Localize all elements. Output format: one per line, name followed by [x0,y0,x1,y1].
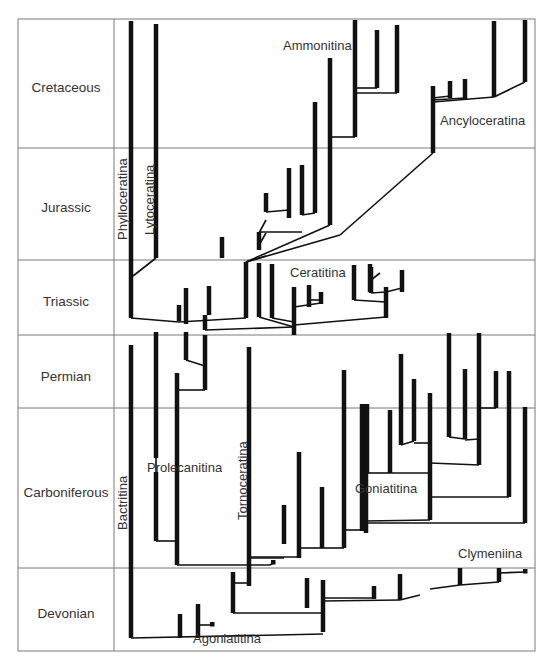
branch-link [294,317,386,325]
clade-label-bactritina: Bactritina [115,475,130,530]
branch-link [133,258,156,276]
branch-link [494,82,525,97]
lineage-endpoint [523,569,528,574]
lineage-endpoint [210,622,215,627]
clade-label-goniatitina: Goniatitina [355,481,418,496]
period-labels: CretaceousJurassicTriassicPermianCarboni… [24,80,109,621]
clade-label-ammonitina: Ammonitina [283,38,352,53]
period-label-devonian: Devonian [37,606,94,621]
branch-link [186,360,205,366]
branch-link [259,220,266,233]
branch-link [179,318,246,322]
clade-label-lytoceratina: Lytoceratina [142,164,157,235]
branch-link [449,437,465,439]
clade-label-clymeniina: Clymeniina [458,546,523,561]
period-label-permian: Permian [41,369,91,384]
clade-label-tornoceratina: Tornoceratina [235,440,250,520]
period-label-jurassic: Jurassic [41,200,91,215]
branch-link [460,582,499,585]
lineage-endpoints [210,560,528,627]
branch-link [266,210,289,212]
period-label-triassic: Triassic [43,294,89,309]
branch-link [323,600,400,601]
branch-link [400,595,420,600]
branch-link [354,300,386,302]
period-label-carboniferous: Carboniferous [24,485,109,500]
clade-label-phylloceratina: Phylloceratina [115,158,130,240]
lineage-endpoint [271,560,276,565]
clade-label-prolecanitina: Prolecanitina [147,460,223,475]
phylogeny-diagram: CretaceousJurassicTriassicPermianCarboni… [0,0,553,668]
branch-link [366,520,430,521]
branch-link [131,318,179,322]
branch-link [499,572,525,573]
clade-label-ceratitina: Ceratitina [290,265,346,280]
branch-link [205,327,294,330]
branch-link [340,153,433,235]
clade-label-ancyloceratina: Ancyloceratina [440,113,526,128]
branch-link [430,463,479,465]
branch-link [386,288,402,292]
clade-label-agoniatitina: Agoniatitina [193,631,262,646]
period-label-cretaceous: Cretaceous [31,80,100,95]
branch-link [430,585,460,589]
branch-link [433,96,450,98]
